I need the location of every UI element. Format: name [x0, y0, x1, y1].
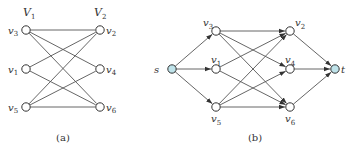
diagram-b-edges: [175, 31, 331, 107]
diagram-a-bipartite-graph: v3v1v5v2v4v6V1V2 (a): [8, 6, 117, 143]
bipartite-and-flow-network-figure: v3v1v5v2v4v6V1V2 (a) sv3v1v5v2v4v6t (b): [0, 0, 351, 153]
node-label-v1: v1: [211, 54, 221, 68]
node-v6: [286, 103, 294, 111]
node-v3: [22, 26, 30, 34]
node-s: [168, 65, 176, 73]
diagram-a-edges: [29, 30, 97, 107]
set-label-V1: V1: [23, 6, 35, 21]
node-label-v1: v1: [8, 64, 18, 78]
edge-v6-t: [293, 72, 331, 104]
node-label-v3: v3: [8, 25, 18, 39]
node-label-v4: v4: [285, 54, 296, 68]
edge-v2-t: [293, 34, 331, 66]
node-v5: [212, 103, 220, 111]
diagram-b-caption: (b): [248, 132, 262, 143]
node-v6: [96, 103, 104, 111]
diagram-a-caption: (a): [56, 132, 70, 143]
diagram-b-flow-network: sv3v1v5v2v4v6t (b): [154, 17, 346, 143]
node-v1: [22, 65, 30, 73]
diagram-a-labels: v3v1v5v2v4v6V1V2: [8, 6, 117, 115]
node-label-v2: v2: [106, 25, 116, 39]
node-label-v5: v5: [8, 102, 18, 116]
node-label-v5: v5: [211, 113, 221, 127]
node-v2: [96, 26, 104, 34]
node-t: [331, 65, 339, 73]
node-label-v3: v3: [203, 17, 213, 31]
node-label-v2: v2: [295, 17, 305, 31]
node-label-t: t: [341, 64, 346, 75]
node-label-v4: v4: [106, 64, 117, 78]
edge-s-v5: [175, 72, 212, 104]
node-label-s: s: [154, 64, 159, 75]
node-label-v6: v6: [285, 113, 296, 127]
set-label-V2: V2: [94, 6, 106, 21]
edge-s-v3: [175, 34, 212, 66]
node-label-v6: v6: [106, 102, 117, 116]
node-v2: [286, 27, 294, 35]
node-v4: [96, 65, 104, 73]
node-v5: [22, 103, 30, 111]
